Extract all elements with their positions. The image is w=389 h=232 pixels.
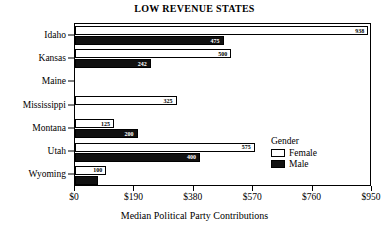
y-axis-label-maine: Maine: [42, 76, 66, 86]
x-axis-tick-label: $950: [362, 192, 381, 202]
y-axis-label-mississippi: Mississippi: [23, 100, 66, 110]
y-axis-label-idaho: Idaho: [44, 30, 66, 40]
legend-swatch-female-icon: [271, 149, 285, 157]
bar-value-label: 325: [164, 98, 173, 104]
x-axis-tick-label: $570: [243, 192, 262, 202]
bar-rect: 125: [75, 119, 114, 128]
bar-male-wyoming: [75, 176, 372, 185]
x-axis-tick: [312, 186, 313, 191]
legend-title: Gender: [271, 136, 357, 146]
x-axis-tick-label: $380: [183, 192, 202, 202]
legend-label-male: Male: [289, 159, 309, 169]
bar-value-label: 500: [218, 51, 227, 57]
bar-value-label: 100: [93, 167, 102, 173]
chart-title: LOW REVENUE STATES: [0, 3, 389, 14]
x-axis-tick: [133, 186, 134, 191]
legend-label-female: Female: [289, 148, 317, 158]
x-axis-tick: [371, 186, 372, 191]
x-axis-tick-label: $0: [69, 192, 79, 202]
bar-rect: [75, 176, 98, 185]
bar-rect: 400: [75, 153, 200, 162]
bar-rect: 200: [75, 129, 138, 138]
bar-rect: 500: [75, 49, 231, 58]
legend-item-male: Male: [271, 159, 357, 169]
legend-swatch-male-icon: [271, 160, 285, 168]
legend-item-female: Female: [271, 148, 357, 158]
bar-value-label: 125: [101, 121, 110, 127]
bar-rect: 100: [75, 166, 106, 175]
bar-female-idaho: 938: [75, 26, 372, 35]
bar-value-label: 938: [355, 28, 364, 34]
x-axis-tick-label: $190: [124, 192, 143, 202]
bar-rect: 475: [75, 36, 224, 45]
x-axis-tick-label: $760: [302, 192, 321, 202]
bar-rect: 575: [75, 143, 255, 152]
x-axis-tick: [252, 186, 253, 191]
bar-rect: 938: [75, 26, 368, 35]
bar-male-idaho: 475: [75, 36, 372, 45]
y-axis: IdahoKansasMaineMississippiMontanaUtahWy…: [0, 23, 74, 186]
bar-value-label: 242: [138, 61, 147, 67]
legend: Gender Female Male: [271, 136, 357, 169]
bar-female-montana: 125: [75, 119, 372, 128]
bar-value-label: 400: [187, 154, 196, 160]
x-axis-tick: [193, 186, 194, 191]
x-axis: $0$190$380$570$760$950: [74, 186, 371, 212]
chart-container: LOW REVENUE STATES IdahoKansasMaineMissi…: [0, 0, 389, 232]
y-axis-label-utah: Utah: [48, 146, 66, 156]
y-axis-label-montana: Montana: [32, 123, 66, 133]
plot-area: 938475500242325125200575400100 Gender Fe…: [74, 23, 371, 186]
bar-male-kansas: 242: [75, 59, 372, 68]
bar-female-kansas: 500: [75, 49, 372, 58]
bar-rect: 325: [75, 96, 177, 105]
bar-value-label: 200: [125, 131, 134, 137]
bar-rect: 242: [75, 59, 151, 68]
bar-value-label: 475: [211, 38, 220, 44]
y-axis-label-wyoming: Wyoming: [29, 169, 66, 179]
y-axis-label-kansas: Kansas: [39, 53, 66, 63]
bar-female-mississippi: 325: [75, 96, 372, 105]
bar-value-label: 575: [242, 144, 251, 150]
x-axis-tick: [74, 186, 75, 191]
x-axis-title: Median Political Party Contributions: [0, 210, 389, 221]
